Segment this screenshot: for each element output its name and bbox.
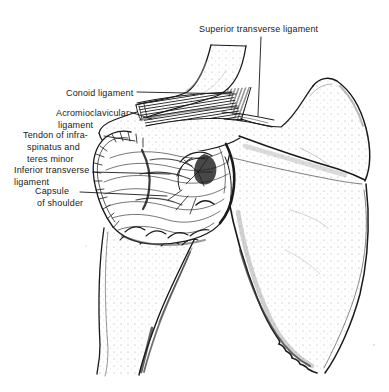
label-tendon-of-infraspinatus-and-teres-minor: Tendon of infra- spinatus and teres mino… bbox=[23, 129, 88, 165]
label-text: Superior transverse ligament bbox=[199, 23, 318, 35]
label-conoid-ligament: Conoid ligament bbox=[66, 87, 133, 99]
label-text: of shoulder bbox=[37, 197, 83, 209]
leader-superior-transverse-ligament bbox=[258, 37, 261, 116]
label-text: Conoid ligament bbox=[66, 87, 133, 99]
humerus bbox=[97, 224, 198, 376]
label-superior-transverse-ligament: Superior transverse ligament bbox=[199, 23, 318, 35]
label-text: Acromioclavicular bbox=[56, 107, 129, 119]
label-text: Tendon of infra- bbox=[23, 129, 88, 141]
label-text: Inferior transverse bbox=[14, 164, 89, 176]
label-capsule-of-shoulder: Capsule of shoulder bbox=[35, 185, 83, 209]
figure-canvas: Superior transverse ligament Conoid liga… bbox=[0, 0, 389, 392]
label-text: spinatus and bbox=[27, 141, 88, 153]
label-text: Capsule bbox=[35, 185, 83, 197]
label-acromioclavicular-ligament: Acromioclavicular ligament bbox=[56, 107, 129, 131]
